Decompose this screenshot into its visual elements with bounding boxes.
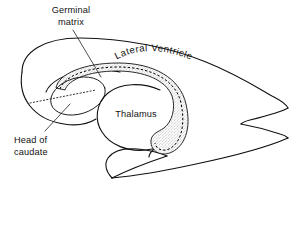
diagram-root: Germinal matrix Lateral Ventricle Thalam…: [0, 0, 296, 231]
temporal-horn-outline: [106, 149, 167, 178]
lateral-ventricle-label: Lateral Ventricle: [113, 42, 195, 62]
germinal-matrix-label-line1: Germinal: [52, 5, 90, 15]
head-of-caudate-label-line2: caudate: [14, 147, 48, 157]
head-of-caudate-label-line1: Head of: [14, 135, 48, 145]
lateral-ventricle-outline: [22, 38, 288, 178]
caudate-dashed-axis: [30, 90, 96, 103]
head-of-caudate-leader: [45, 104, 70, 131]
thalamus-label: Thalamus: [115, 109, 157, 119]
lateral-ventricle-label-text: Lateral Ventricle: [113, 42, 195, 62]
germinal-matrix-label-line2: matrix: [58, 17, 84, 27]
anatomical-diagram-svg: Germinal matrix Lateral Ventricle Thalam…: [0, 0, 296, 231]
